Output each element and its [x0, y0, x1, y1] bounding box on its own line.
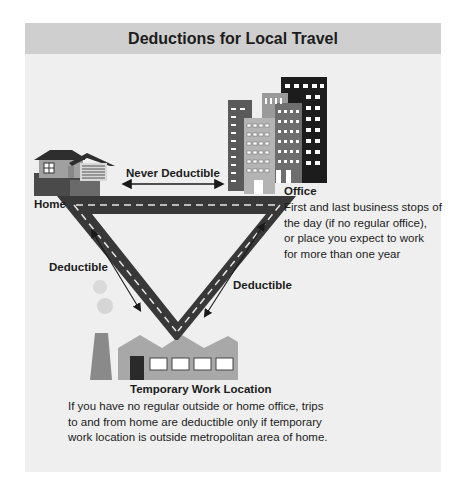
- temporary-work-location-label: Temporary Work Location: [130, 383, 271, 395]
- house-icon: [34, 150, 115, 196]
- deductible-right-label: Deductible: [233, 279, 292, 291]
- deductible-left-label: Deductible: [49, 261, 108, 273]
- temporary-work-location-description: If you have no regular outside or home o…: [68, 399, 328, 446]
- never-deductible-label: Never Deductible: [126, 167, 220, 179]
- office-buildings-icon: [228, 77, 327, 194]
- office-label: Office: [284, 185, 317, 197]
- home-label: Home: [34, 198, 66, 210]
- office-description: First and last business stops of the day…: [284, 200, 442, 262]
